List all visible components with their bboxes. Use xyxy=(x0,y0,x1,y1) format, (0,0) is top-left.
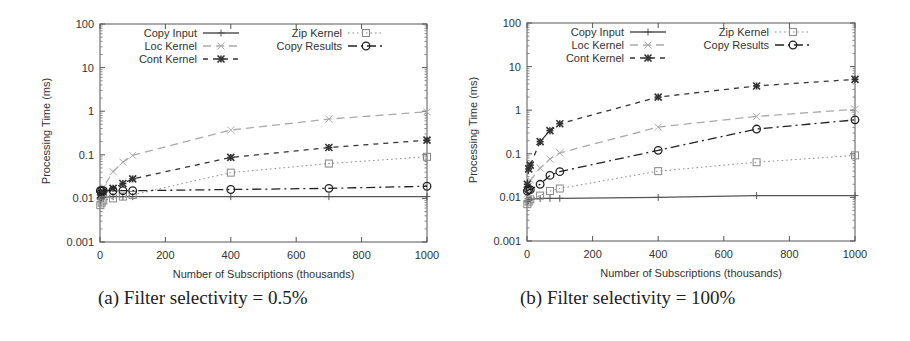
legend: Copy InputLoc KernelCont KernelZip Kerne… xyxy=(566,26,811,64)
x-tick-label: 0 xyxy=(524,248,530,260)
y-tick-label: 0.01 xyxy=(500,191,521,203)
legend: Copy InputLoc KernelCont KernelZip Kerne… xyxy=(139,27,384,65)
x-tick-label: 0 xyxy=(97,249,103,261)
series-loc-kernel xyxy=(524,106,859,198)
legend-item: Loc Kernel xyxy=(571,39,666,51)
star-marker xyxy=(119,180,126,187)
x-tick-label: 1000 xyxy=(843,248,867,260)
x-axis-title: Number of Subscriptions (thousands) xyxy=(600,267,782,279)
star-marker xyxy=(325,144,332,151)
x-tick-label: 200 xyxy=(583,248,601,260)
caption-b: (b) Filter selectivity = 100% xyxy=(520,287,735,309)
caption-a: (a) Filter selectivity = 0.5% xyxy=(98,287,308,309)
y-tick-label: 0.001 xyxy=(66,236,94,248)
series-line xyxy=(100,140,427,195)
y-tick-label: 1 xyxy=(88,105,94,117)
legend-label: Copy Results xyxy=(277,40,343,52)
series-group xyxy=(524,76,859,208)
series-line xyxy=(100,186,427,190)
star-marker xyxy=(852,76,859,83)
series-line xyxy=(527,120,855,191)
legend-item: Copy Input xyxy=(144,27,239,39)
legend-item: Cont Kernel xyxy=(566,52,666,64)
y-tick-label: 0.01 xyxy=(73,192,94,204)
series-zip-kernel xyxy=(524,152,859,208)
y-axis-title: Processing Time (ms) xyxy=(40,78,52,184)
legend-label: Copy Input xyxy=(144,27,197,39)
legend-item: Cont Kernel xyxy=(139,53,239,65)
x-tick-label: 1000 xyxy=(415,249,439,261)
series-cont-kernel xyxy=(97,137,431,199)
x-tick-label: 200 xyxy=(156,249,174,261)
legend-item: Zip Kernel xyxy=(719,26,811,38)
y-tick-label: 100 xyxy=(503,17,521,29)
series-copy-results xyxy=(97,182,431,194)
y-tick-label: 0.001 xyxy=(493,235,521,247)
circle-marker xyxy=(546,172,554,180)
legend-item: Loc Kernel xyxy=(144,40,239,52)
legend-label: Loc Kernel xyxy=(144,40,197,52)
star-marker xyxy=(537,138,544,145)
series-copy-input xyxy=(524,192,859,205)
line-chart-a: 0.0010.010.111010002004006008001000Numbe… xyxy=(0,0,455,285)
legend-label: Copy Results xyxy=(704,39,770,51)
x-axis-title: Number of Subscriptions (thousands) xyxy=(173,268,355,280)
x-tick-label: 800 xyxy=(780,248,798,260)
chart-panel-b: 0.0010.010.111010002004006008001000Numbe… xyxy=(455,0,910,341)
series-loc-kernel xyxy=(97,108,431,198)
x-tick-label: 600 xyxy=(715,248,733,260)
star-marker xyxy=(227,154,234,161)
star-marker xyxy=(424,137,431,144)
y-tick-label: 10 xyxy=(509,61,521,73)
series-line xyxy=(100,112,427,195)
x-tick-label: 800 xyxy=(352,249,370,261)
legend-item: Zip Kernel xyxy=(292,27,384,39)
star-marker xyxy=(753,82,760,89)
x-tick-label: 400 xyxy=(222,249,240,261)
series-copy-results xyxy=(524,116,859,195)
series-line xyxy=(527,109,855,194)
star-marker xyxy=(218,56,225,63)
legend-item: Copy Results xyxy=(277,40,384,52)
star-marker xyxy=(655,94,662,101)
y-axis-title: Processing Time (ms) xyxy=(467,77,479,183)
series-zip-kernel xyxy=(97,153,431,208)
square-marker xyxy=(753,159,760,166)
legend-label: Zip Kernel xyxy=(719,26,769,38)
legend-label: Cont Kernel xyxy=(566,52,624,64)
legend-label: Copy Input xyxy=(571,26,624,38)
series-line xyxy=(527,79,855,184)
y-tick-label: 0.1 xyxy=(506,148,521,160)
star-marker xyxy=(546,127,553,134)
star-marker xyxy=(556,120,563,127)
legend-label: Cont Kernel xyxy=(139,53,197,65)
legend-item: Copy Results xyxy=(704,39,811,51)
x-tick-label: 400 xyxy=(649,248,667,260)
legend-item: Copy Input xyxy=(571,26,666,38)
y-tick-label: 10 xyxy=(82,62,94,74)
series-group xyxy=(97,108,431,208)
chart-panel-a: 0.0010.010.111010002004006008001000Numbe… xyxy=(0,0,455,341)
series-copy-input xyxy=(97,193,431,203)
star-marker xyxy=(129,175,136,182)
star-marker xyxy=(527,162,534,169)
series-line xyxy=(100,197,427,200)
x-tick-label: 600 xyxy=(287,249,305,261)
series-line xyxy=(527,196,855,202)
legend-label: Zip Kernel xyxy=(292,27,342,39)
legend-label: Loc Kernel xyxy=(571,39,624,51)
y-tick-label: 100 xyxy=(76,18,94,30)
y-axis: 0.0010.010.1110100 xyxy=(66,18,427,248)
series-cont-kernel xyxy=(524,76,859,188)
y-tick-label: 1 xyxy=(515,104,521,116)
line-chart-b: 0.0010.010.111010002004006008001000Numbe… xyxy=(455,0,910,285)
y-tick-label: 0.1 xyxy=(79,149,94,161)
star-marker xyxy=(645,55,652,62)
series-line xyxy=(100,157,427,205)
